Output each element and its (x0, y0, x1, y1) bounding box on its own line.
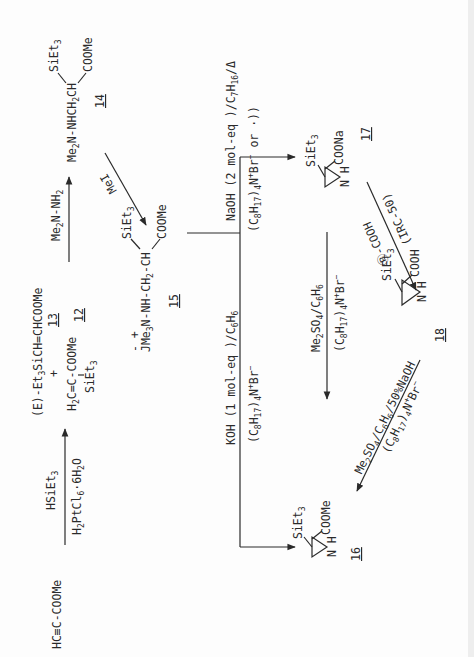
compound-17-sub-bottom: COONa (332, 130, 346, 165)
compound-16-label: 16 (349, 547, 363, 561)
compound-18-sub-bottom: COOH (408, 249, 422, 277)
start-material: HC≡C-COOMe (50, 580, 64, 649)
compound-14-formula: Me2N-NHCH2CH (65, 83, 81, 162)
page-edge (468, 0, 474, 657)
compound-15-sub-bottom: COOMe (155, 204, 169, 239)
compound-17-nh: N H (338, 166, 352, 187)
bond-14-bottom (78, 73, 86, 83)
reagent-dms: Me2SO4/C6H6 (309, 284, 325, 352)
bond-15-top (131, 239, 140, 249)
reaction-scheme: HC≡C-COOMe HSiEt3 H2PtCl6·6H2O (E)-Et3Si… (0, 0, 474, 657)
reagent-koh-ptc: (C8H17)4N+Br− (246, 365, 263, 443)
compound-15-sub-top: SiEt3 (120, 206, 136, 239)
compound-14-sub-top: SiEt3 (47, 39, 63, 72)
reagent-mei: MeI (97, 171, 120, 196)
compound-16-nh: N H (325, 536, 339, 557)
reagent-koh: KOH (1 mol-eq )/C6H6 (224, 311, 240, 445)
compound-16-sub-top: SiEt3 (291, 506, 307, 539)
plus-sign: + (47, 370, 61, 377)
compound-17-label: 17 (359, 127, 373, 141)
bond-14-top (58, 73, 66, 83)
compound-15-label: 15 (167, 294, 181, 308)
compound-13-formula: (E)-Et3SiCH=CHCOOMe (31, 287, 47, 417)
bond-15-bottom (152, 239, 160, 249)
reagent-hsiet3: HSiEt3 (44, 470, 60, 510)
compound-16-sub-bottom: COOMe (319, 500, 333, 535)
compound-14-label: 14 (93, 94, 107, 108)
reagent-h2ptcl6: H2PtCl6·6H2O (70, 458, 86, 535)
compound-13-label: 13 (46, 313, 60, 327)
compound-12-formula: H2C=C-COOMe (65, 337, 81, 411)
reagent-naoh-ptc: (C8H17)4N+Br− or ·)) (246, 106, 263, 232)
compound-12-label: 12 (72, 308, 86, 322)
reagent-me2nnh2: Me2N-NH2 (49, 190, 65, 241)
reagent-naoh: NaOH (2 mol-eq )/C7H16/Δ (224, 61, 240, 221)
compound-14-sub-bottom: COOMe (81, 37, 95, 72)
reagent-dms-ptc: (C8H17)4N+Br− (332, 274, 349, 352)
compound-12-sub: SiEt3 (83, 360, 99, 393)
compound-18-label: 18 (433, 328, 447, 342)
compound-15-formula: JMe3N-NH-CH2-CH (139, 252, 155, 352)
compound-18-nh: N H (415, 281, 429, 302)
reaction-scheme-page: HC≡C-COOMe HSiEt3 H2PtCl6·6H2O (E)-Et3Si… (0, 0, 474, 657)
compound-17-sub-top: SiEt3 (304, 134, 320, 167)
